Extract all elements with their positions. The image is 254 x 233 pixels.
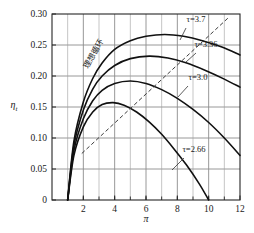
y-tick-label: 0.25	[30, 40, 47, 50]
y-tick-label: 0.15	[30, 102, 47, 112]
x-tick-label: 2	[81, 204, 86, 214]
y-tick-label: 0.20	[30, 71, 47, 81]
chart-container: 24681012 00.050.100.150.200.250.30 τ=3.7…	[0, 0, 254, 233]
x-tick-label: 12	[235, 204, 245, 214]
y-tick-label: 0.30	[30, 9, 47, 19]
y-tick-label: 0.10	[30, 133, 47, 143]
curve-label-2: τ=3.0	[189, 72, 208, 82]
x-tick-label: 8	[175, 204, 180, 214]
y-tick-label: 0.05	[30, 164, 47, 174]
x-tick-label: 10	[204, 204, 214, 214]
x-tick-label: 4	[112, 204, 117, 214]
y-tick-label: 0	[42, 195, 47, 205]
efficiency-vs-pressure-ratio-chart: 24681012 00.050.100.150.200.250.30 τ=3.7…	[0, 0, 254, 233]
curve-label-1: τ=3.36	[194, 39, 217, 49]
curve-label-3: τ=2.66	[182, 144, 205, 154]
chart-background	[0, 0, 254, 233]
curve-label-0: τ=3.7	[187, 14, 206, 24]
